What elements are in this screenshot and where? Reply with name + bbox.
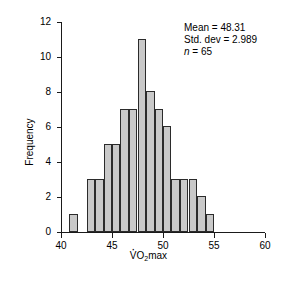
x-axis-title: VO2max (0, 250, 297, 261)
histogram-bar (138, 39, 146, 233)
histogram-bar (69, 214, 78, 233)
x-tick-label: 40 (55, 241, 66, 251)
y-tick-label: 0 (45, 227, 51, 237)
histogram-bar (146, 91, 155, 232)
y-axis-title: Frequency (24, 118, 35, 165)
y-tick: 8 (57, 92, 61, 93)
x-tick-label: 50 (157, 241, 168, 251)
histogram-bar (155, 109, 163, 233)
y-tick-label: 6 (45, 122, 51, 132)
y-tick-label: 10 (40, 52, 51, 62)
y-tick-label: 12 (40, 17, 51, 27)
histogram-bar (120, 109, 129, 233)
x-tick-label: 55 (208, 241, 219, 251)
histogram-bar (171, 179, 180, 233)
x-tick (265, 233, 266, 238)
y-tick: 12 (57, 22, 61, 23)
x-tick (112, 233, 113, 238)
y-tick: 6 (57, 127, 61, 128)
y-tick: 2 (57, 197, 61, 198)
histogram-bar (112, 144, 120, 233)
histogram-figure: Frequency VO2max Mean = 48.31 Std. dev =… (0, 0, 297, 283)
histogram-bar (104, 144, 112, 233)
x-tick (163, 233, 164, 238)
y-tick-label: 2 (45, 192, 51, 202)
histogram-bar (129, 109, 137, 233)
x-axis-title-subscript: 2 (144, 255, 148, 262)
x-tick (61, 233, 62, 238)
v-dot-glyph: V (130, 250, 137, 261)
y-tick: 4 (57, 162, 61, 163)
x-tick-label: 60 (259, 241, 270, 251)
histogram-bar (163, 126, 171, 232)
plot-area: 024681012 4045505560 (61, 22, 265, 233)
histogram-bar (197, 196, 206, 232)
x-tick (214, 233, 215, 238)
histogram-bar (189, 179, 197, 233)
y-axis-line (61, 22, 62, 233)
histogram-bar (87, 179, 95, 233)
histogram-bar (206, 214, 214, 233)
y-tick: 10 (57, 57, 61, 58)
y-tick-label: 4 (45, 157, 51, 167)
x-axis-title-rest: max (148, 250, 167, 261)
histogram-bar (95, 179, 104, 233)
x-tick-label: 45 (106, 241, 117, 251)
histogram-bar (180, 179, 188, 233)
y-tick-label: 8 (45, 87, 51, 97)
